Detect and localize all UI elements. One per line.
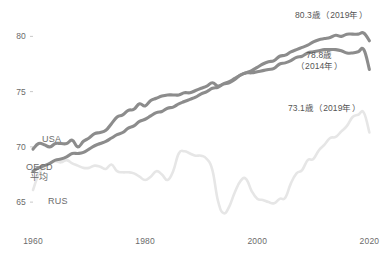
annotation-usa-endpoint: 78.8歳 （2014年） (296, 50, 343, 72)
x-axis-tick-label: 2000 (237, 236, 277, 246)
series-label-rus-line1: RUS (48, 197, 68, 207)
y-axis-tick-label: 80 (4, 31, 26, 41)
annotation-rus-line1: 73.1歳（2019年） (288, 103, 361, 114)
x-axis-tick-label: 2020 (349, 236, 382, 246)
annotation-oecd-endpoint: 80.3歳（2019年） (295, 10, 368, 21)
series-label-usa: USA (42, 135, 61, 145)
x-axis-tick-label: 1960 (13, 236, 53, 246)
y-axis-tick-label: 75 (4, 87, 26, 97)
series-label-rus: RUS (48, 197, 68, 207)
life-expectancy-line-chart: 80 75 70 65 1960 1980 2000 2020 USA OECD… (0, 0, 382, 259)
series-label-usa-line1: USA (42, 135, 61, 145)
annotation-usa-line1: 78.8歳 (296, 50, 343, 61)
annotation-usa-line2: （2014年） (296, 61, 343, 72)
x-axis-tick-label: 1980 (125, 236, 165, 246)
series-line-rus (33, 111, 369, 213)
y-axis-tick-label: 70 (4, 142, 26, 152)
series-label-oecd: OECD 平均 (26, 163, 53, 182)
annotation-oecd-line1: 80.3歳（2019年） (295, 10, 368, 21)
series-label-oecd-line2: 平均 (26, 173, 53, 183)
annotation-rus-endpoint: 73.1歳（2019年） (288, 103, 361, 114)
y-axis-tick-label: 65 (4, 197, 26, 207)
chart-plot-area (0, 0, 382, 259)
